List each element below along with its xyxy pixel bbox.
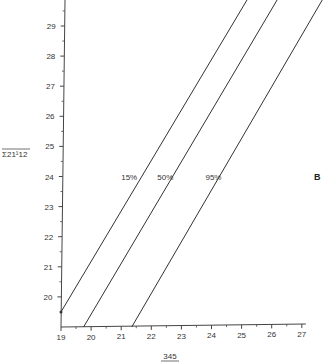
y-axis-label: Σ21¹12 [2,150,28,159]
y-tick-label: 28 [46,52,55,61]
axes: 19202122232425262720212223242526272829 [43,0,306,342]
series-line-95pct [132,0,323,327]
y-tick-label: 20 [43,293,52,302]
series-label-95pct: 95% [205,173,221,182]
y-tick-label: 25 [45,142,54,151]
series-label-15pct: 15% [121,173,137,182]
x-tick-label: 19 [57,333,66,342]
series-lines [60,0,323,327]
start-point-marker [60,310,63,313]
y-axis-line [61,0,65,327]
panel-label: B [314,172,321,182]
x-tick-label: 21 [117,332,126,341]
y-tick-label: 27 [46,82,55,91]
x-tick-label: 27 [297,330,306,339]
y-tick-label: 29 [47,22,56,31]
y-tick-label: 21 [44,263,53,272]
x-tick-label: 23 [177,332,186,341]
y-tick-label: 23 [45,203,54,212]
y-tick-label: 22 [44,233,53,242]
x-tick-label: 26 [267,330,276,339]
x-tick-label: 24 [207,331,216,340]
x-axis-line [61,324,306,327]
series-line-50pct [84,0,278,327]
y-tick-label: 26 [46,112,55,121]
chart-figure: 19202122232425262720212223242526272829 1… [0,0,324,363]
series-label-50pct: 50% [157,173,173,182]
x-axis-label: 345 [163,352,177,361]
x-tick-label: 22 [147,332,156,341]
y-tick-label: 24 [45,173,54,182]
series-labels: 15%50%95% [121,173,221,182]
series-line-15pct [61,0,248,312]
x-tick-label: 20 [87,333,96,342]
x-tick-label: 25 [237,331,246,340]
